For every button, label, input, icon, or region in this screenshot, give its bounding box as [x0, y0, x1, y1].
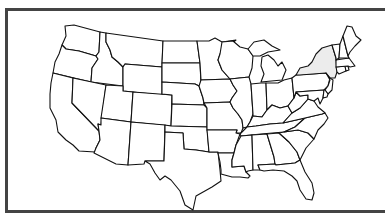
state-arizona[interactable]: [94, 118, 131, 165]
state-north-dakota[interactable]: [162, 41, 200, 63]
state-kansas[interactable]: [171, 104, 207, 127]
state-indiana[interactable]: [251, 83, 267, 117]
state-new-york[interactable]: [296, 45, 337, 78]
state-colorado[interactable]: [131, 92, 172, 126]
state-wyoming[interactable]: [123, 64, 162, 95]
state-new-mexico[interactable]: [128, 122, 165, 165]
state-florida[interactable]: [258, 160, 314, 200]
state-michigan[interactable]: [248, 40, 286, 82]
state-massachusetts[interactable]: [336, 58, 355, 67]
